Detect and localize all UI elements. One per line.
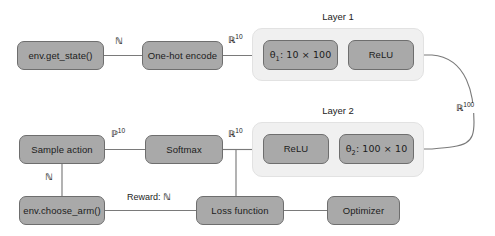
edge-label-reward-nat: Reward: ℕ — [126, 192, 172, 202]
node-theta1-label: θ1: 10 × 100 — [270, 50, 332, 60]
flow-diagram: Layer 1 Layer 2 env.get_state() One-hot … — [0, 0, 495, 236]
node-env-get-state[interactable]: env.get_state() — [17, 41, 104, 70]
edge-label-sample-p10: ℙ10 — [110, 129, 126, 139]
edge-label-state-nat: ℕ — [114, 36, 124, 46]
node-sample-action[interactable]: Sample action — [19, 135, 105, 164]
edge-label-softmax-r10: ℝ10 — [227, 129, 244, 139]
group-layer2-label: Layer 2 — [252, 105, 424, 116]
node-relu-layer2[interactable]: ReLU — [263, 134, 329, 164]
edge-label-action-nat: ℕ — [44, 172, 54, 182]
node-env-choose-arm[interactable]: env.choose_arm() — [19, 196, 105, 225]
node-relu-layer1[interactable]: ReLU — [348, 40, 414, 70]
node-softmax[interactable]: Softmax — [145, 135, 223, 164]
node-theta1[interactable]: θ1: 10 × 100 — [263, 40, 338, 70]
node-theta2[interactable]: θ2: 100 × 10 — [339, 134, 414, 164]
node-loss-function[interactable]: Loss function — [196, 196, 284, 225]
group-layer1-label: Layer 1 — [252, 11, 424, 22]
node-one-hot-encode[interactable]: One-hot encode — [142, 41, 223, 70]
edge-label-onehot-r10: ℝ10 — [227, 35, 244, 45]
node-optimizer[interactable]: Optimizer — [327, 196, 400, 225]
node-theta2-label: θ2: 100 × 10 — [346, 144, 408, 154]
edge-label-loop-r100: ℝ100 — [455, 103, 475, 113]
